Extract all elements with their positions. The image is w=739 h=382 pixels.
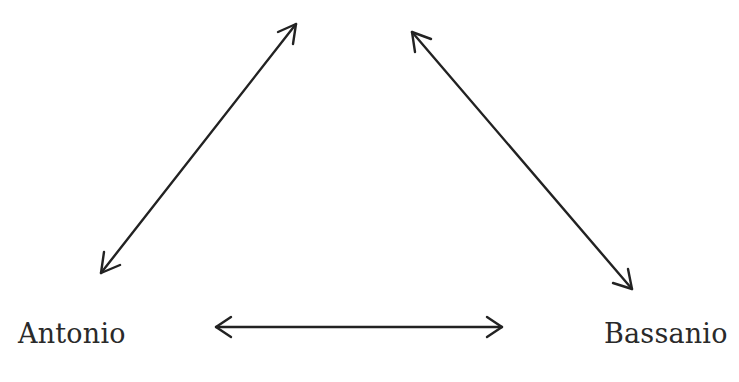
node-bassanio: Bassanio	[604, 318, 728, 349]
arrow-antonio-bassanio	[216, 317, 502, 337]
arrow-antonio-top	[101, 24, 296, 273]
node-antonio: Antonio	[18, 318, 126, 349]
arrow-bassanio-top	[412, 32, 632, 289]
relationship-diagram: Antonio Bassanio	[0, 0, 739, 382]
